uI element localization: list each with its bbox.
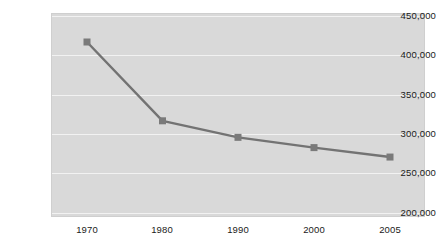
x-tick-label: 1980	[132, 224, 192, 235]
x-tick-label: 2005	[360, 224, 420, 235]
x-tick-label: 1970	[57, 224, 117, 235]
line-chart: 450,000 400,000 350,000 300,000 250,000 …	[0, 0, 436, 249]
x-tick-label: 2000	[284, 224, 344, 235]
x-tick-label: 1990	[208, 224, 268, 235]
x-axis: 1970 1980 1990 2000 2005	[0, 0, 436, 249]
